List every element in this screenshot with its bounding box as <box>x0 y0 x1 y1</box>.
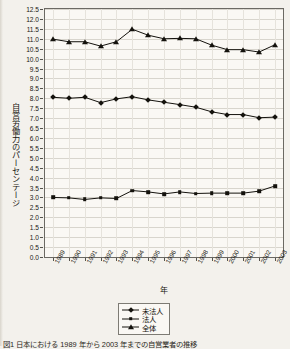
square-marker-icon <box>257 189 261 193</box>
square-marker-icon <box>99 196 103 200</box>
y-axis-tick-mark <box>40 138 43 139</box>
y-axis-tick-label: 5.5 <box>30 144 39 151</box>
triangle-marker-icon <box>122 323 139 331</box>
triangle-marker-icon <box>193 36 199 41</box>
y-axis-tick-label: 10.5 <box>26 45 39 52</box>
y-axis-tick-label: 0.0 <box>30 254 39 261</box>
y-axis-tick-mark <box>40 178 43 179</box>
y-axis-tick-label: 10.0 <box>26 55 39 62</box>
y-axis-tick-label: 9.0 <box>30 75 39 82</box>
diamond-marker-icon <box>122 306 139 314</box>
y-axis-tick-label: 0.5 <box>30 244 39 251</box>
triangle-marker-icon <box>113 39 119 44</box>
chart-legend: 未法人法人全体 <box>118 303 170 335</box>
y-axis-tick-mark <box>40 19 43 20</box>
square-marker-icon <box>178 190 182 194</box>
square-marker-icon <box>83 198 87 202</box>
y-axis-tick-mark <box>40 227 43 228</box>
y-axis-tick-label: 11.5 <box>27 25 39 32</box>
triangle-marker-icon <box>161 36 167 41</box>
triangle-marker-icon <box>98 43 104 48</box>
triangle-marker-icon <box>66 39 72 44</box>
y-axis-tick-mark <box>40 217 43 218</box>
square-marker-icon <box>67 196 71 200</box>
y-axis-tick-mark <box>40 247 43 248</box>
square-marker-icon <box>226 191 230 195</box>
y-axis-tick-label: 2.0 <box>30 214 39 221</box>
y-axis-tick-mark <box>40 128 43 129</box>
triangle-marker-icon <box>177 36 183 41</box>
y-axis-tick-label: 11.0 <box>27 35 39 42</box>
triangle-marker-icon <box>256 49 262 54</box>
triangle-marker-icon <box>82 39 88 44</box>
triangle-marker-icon <box>50 36 56 41</box>
square-marker-icon <box>115 197 119 201</box>
square-marker-icon <box>241 191 245 195</box>
y-axis-tick-mark <box>40 118 43 119</box>
y-axis-tick-mark <box>40 257 43 258</box>
y-axis-tick-mark <box>40 237 43 238</box>
plot-area <box>44 8 284 258</box>
y-axis-tick-mark <box>40 88 43 89</box>
figure-caption: 図1 日本における 1989 年から 2003 年までの自営業者の推移 <box>3 338 289 349</box>
square-marker-icon <box>162 192 166 196</box>
y-axis-tick-mark <box>40 207 43 208</box>
y-axis-tick-mark <box>40 49 43 50</box>
y-axis-tick-label: 4.5 <box>30 164 39 171</box>
y-axis-tick-mark <box>40 197 43 198</box>
y-axis-tick-label: 7.0 <box>30 115 39 122</box>
legend-item-label: 全体 <box>142 322 156 333</box>
y-axis-tick-mark <box>40 69 43 70</box>
y-axis-tick-mark <box>40 39 43 40</box>
y-axis-tick-label: 8.5 <box>30 85 39 92</box>
y-axis-tick-label: 1.0 <box>30 234 39 241</box>
y-axis-tick-label: 2.5 <box>30 204 39 211</box>
triangle-marker-icon <box>240 47 246 52</box>
square-marker-icon <box>51 196 55 200</box>
y-axis-tick-labels: 0.00.51.01.52.02.53.03.54.04.55.05.56.06… <box>17 0 43 266</box>
triangle-marker-icon <box>209 42 215 47</box>
triangle-marker-icon <box>129 26 135 31</box>
legend-item[interactable]: 全体 <box>122 323 163 332</box>
y-axis-tick-label: 8.0 <box>30 95 39 102</box>
y-axis-tick-mark <box>40 148 43 149</box>
square-marker-icon <box>130 189 134 193</box>
square-marker-icon <box>194 192 198 196</box>
y-axis-tick-mark <box>40 188 43 189</box>
y-axis-tick-label: 5.0 <box>30 154 39 161</box>
square-marker-icon <box>122 315 139 323</box>
square-marker-icon <box>273 184 277 188</box>
y-axis-tick-label: 6.5 <box>30 125 39 132</box>
y-axis-tick-mark <box>40 78 43 79</box>
x-axis-title: 年 <box>44 284 284 295</box>
y-axis-tick-mark <box>40 59 43 60</box>
y-axis-tick-mark <box>40 108 43 109</box>
x-axis-tick-labels: 1989199019911992199319941995199619971998… <box>44 258 284 286</box>
y-axis-tick-label: 4.0 <box>30 174 39 181</box>
triangle-marker-icon <box>145 32 151 37</box>
y-axis-tick-label: 12.5 <box>26 6 39 13</box>
square-marker-icon <box>210 191 214 195</box>
y-axis-tick-label: 12.0 <box>26 15 39 22</box>
y-axis-tick-mark <box>40 98 43 99</box>
y-axis-tick-label: 9.5 <box>30 65 39 72</box>
y-axis-tick-mark <box>40 29 43 30</box>
y-axis-tick-label: 1.5 <box>30 224 39 231</box>
series-lines <box>45 9 283 257</box>
y-axis-tick-mark <box>40 168 43 169</box>
y-axis-tick-label: 6.0 <box>30 134 39 141</box>
y-axis-tick-label: 3.0 <box>30 194 39 201</box>
y-axis-tick-mark <box>40 158 43 159</box>
y-axis-tick-mark <box>40 9 43 10</box>
square-marker-icon <box>146 190 150 194</box>
y-axis-tick-label: 3.5 <box>30 184 39 191</box>
y-axis-tick-label: 7.5 <box>30 105 39 112</box>
triangle-marker-icon <box>224 47 230 52</box>
triangle-marker-icon <box>272 42 278 47</box>
